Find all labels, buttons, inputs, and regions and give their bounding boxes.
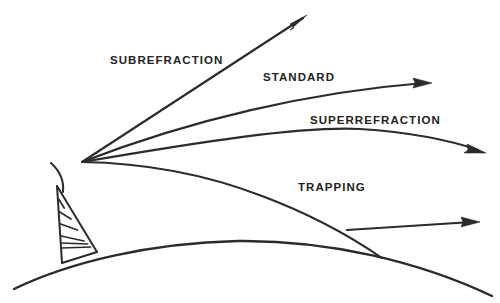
subrefraction-ray — [82, 15, 307, 162]
trapping-arrowhead-icon — [461, 217, 480, 227]
trapped-duct-ray-path — [347, 222, 472, 230]
label-superrefraction: SUPERREFRACTION — [310, 114, 441, 126]
tower-right-leg — [57, 186, 97, 252]
tower-rung-3 — [61, 224, 78, 230]
tower-rung-2 — [60, 212, 71, 219]
trapped-duct-ray — [347, 217, 480, 230]
subrefraction-arrowhead-icon — [290, 15, 307, 30]
subrefraction-ray-path — [82, 18, 303, 162]
superrefraction-ray — [82, 129, 486, 162]
tower-rung-1 — [59, 199, 65, 208]
label-subrefraction: SUBREFRACTION — [110, 54, 223, 66]
superrefraction-arrowhead-icon — [464, 144, 486, 153]
superrefraction-ray-path — [82, 129, 478, 162]
label-trapping: TRAPPING — [298, 181, 366, 193]
label-standard: STANDARD — [263, 71, 335, 83]
antenna-tower — [51, 163, 97, 263]
diagram-canvas: SUBREFRACTION STANDARD SUPERREFRACTION T… — [0, 0, 500, 303]
tower-rung-5 — [62, 247, 91, 248]
propagation-diagram: SUBREFRACTION STANDARD SUPERREFRACTION T… — [0, 0, 500, 303]
earth-surface-curve — [14, 241, 492, 296]
tower-rung-6 — [61, 243, 87, 244]
trapping-ray-path — [82, 162, 382, 258]
standard-arrowhead-icon — [413, 78, 432, 88]
tower-rung-4 — [61, 236, 84, 241]
trapping-ray — [82, 162, 382, 258]
